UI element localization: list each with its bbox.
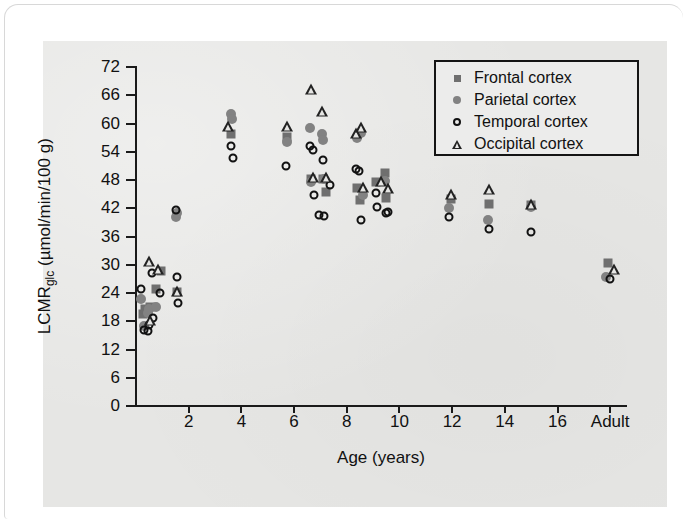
figure-card [4,4,683,519]
figure-page: 061218243036424854606672 246810121416Adu… [0,0,687,523]
figure-panel [43,41,667,507]
